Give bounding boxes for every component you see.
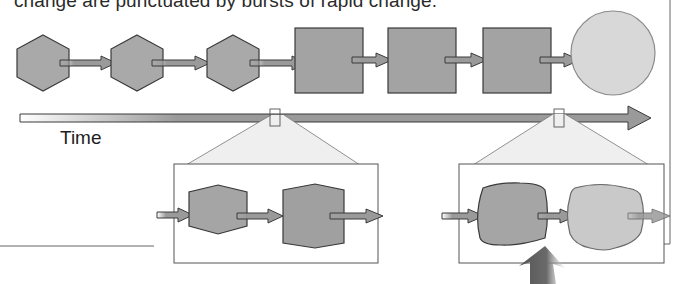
- zoom-panel-left: [157, 164, 383, 263]
- time-axis-label: Time: [60, 127, 102, 149]
- zoom-panel-right: [442, 164, 670, 263]
- detail-hexagon: [189, 185, 247, 234]
- stage-circle: [571, 11, 655, 95]
- punctuated-change-diagram: [0, 0, 681, 284]
- detail-rounded-square: [478, 183, 548, 245]
